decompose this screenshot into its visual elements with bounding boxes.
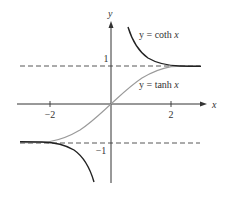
x-axis-label: x <box>211 99 217 110</box>
tick-label-y-neg1: −1 <box>96 145 107 156</box>
y-axis-arrow-icon <box>109 21 114 28</box>
hyperbolic-functions-plot: −2 2 1 −1 x y y = coth x y = tanh x <box>0 0 226 197</box>
coth-label: y = coth x <box>139 29 179 40</box>
coth-curve-negative-branch <box>20 142 94 182</box>
tick-label-x-2: 2 <box>169 109 174 120</box>
x-axis-arrow-icon <box>200 102 207 107</box>
tanh-label: y = tanh x <box>139 79 179 90</box>
tick-label-y-1: 1 <box>104 53 109 64</box>
tick-label-x-neg2: −2 <box>45 109 56 120</box>
y-axis-label: y <box>107 8 113 19</box>
